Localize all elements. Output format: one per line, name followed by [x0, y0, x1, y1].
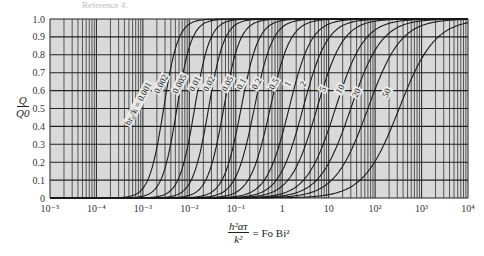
x-tick: 10⁻⁵: [41, 203, 60, 214]
y-tick: 0.5: [33, 103, 46, 114]
y-tick: 0.7: [33, 67, 46, 78]
y-tick: 1.0: [33, 14, 46, 25]
y-tick: 0.2: [33, 157, 46, 168]
x-label-rhs: = Fo Bi²: [253, 227, 290, 239]
y-tick: 0.3: [33, 139, 46, 150]
chart-plot: hr₀/k = 0.0010.0020.0050.010.020.050.10.…: [0, 0, 484, 256]
x-tick: 10⁻¹: [227, 203, 245, 214]
x-tick: 10⁻⁴: [87, 203, 106, 214]
x-axis-label: h²ατ k² = Fo Bi²: [228, 220, 290, 245]
x-label-denominator: k²: [234, 233, 242, 245]
x-tick: 10⁴: [461, 203, 475, 214]
x-label-fraction: h²ατ k²: [228, 220, 249, 245]
x-tick: 10⁻³: [134, 203, 152, 214]
y-tick: 0.9: [33, 31, 46, 42]
y-tick: 0.1: [33, 175, 46, 186]
x-tick: 10²: [369, 203, 382, 214]
y-tick: 0.6: [33, 85, 46, 96]
x-tick: 10⁻²: [180, 203, 198, 214]
x-tick: 10: [324, 203, 334, 214]
x-tick: 1: [280, 203, 285, 214]
y-tick: 0.8: [33, 49, 46, 60]
y-axis-label: Q Q0: [16, 94, 29, 119]
y-label-denominator: Q0: [16, 107, 29, 119]
y-tick: 0: [40, 193, 45, 204]
x-tick: 10³: [415, 203, 428, 214]
y-label-numerator: Q: [17, 94, 29, 107]
x-label-numerator: h²ατ: [228, 220, 249, 233]
y-tick: 0.4: [33, 121, 46, 132]
